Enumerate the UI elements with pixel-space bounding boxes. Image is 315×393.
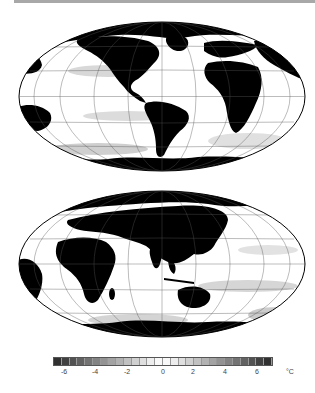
colorbar-segment (101, 358, 109, 365)
map-top-americas (18, 21, 306, 172)
map-bottom-eurasia (18, 190, 306, 338)
colorbar-segment (54, 358, 62, 365)
map-bottom-svg (18, 190, 306, 338)
colorbar (53, 357, 273, 366)
colorbar-segment (217, 358, 225, 365)
colorbar-segment (264, 358, 272, 365)
colorbar-segment (132, 358, 140, 365)
colorbar-segment (147, 358, 155, 365)
colorbar-segment (70, 358, 78, 365)
tick-label: 0 (161, 368, 165, 375)
colorbar-segment (85, 358, 93, 365)
colorbar-ticks: -6 -4 -2 0 2 4 6 (0, 368, 315, 378)
colorbar-segment (194, 358, 202, 365)
colorbar-segment (241, 358, 249, 365)
colorbar-segment (225, 358, 233, 365)
tick-label: 2 (191, 368, 195, 375)
colorbar-segment (210, 358, 218, 365)
header-rule (14, 0, 315, 3)
map-top-svg (18, 21, 306, 172)
colorbar-segment (256, 358, 264, 365)
tick-label: -6 (61, 368, 67, 375)
colorbar-segment (124, 358, 132, 365)
colorbar-segment (186, 358, 194, 365)
colorbar-segment (249, 358, 257, 365)
colorbar-unit: °C (286, 368, 294, 375)
colorbar-segment (171, 358, 179, 365)
colorbar-segment (93, 358, 101, 365)
colorbar-segment (62, 358, 70, 365)
tick-label: -2 (124, 368, 130, 375)
colorbar-segment (179, 358, 187, 365)
colorbar-segment (155, 358, 163, 365)
tick-label: 6 (255, 368, 259, 375)
tick-label: -4 (92, 368, 98, 375)
colorbar-segment (140, 358, 148, 365)
colorbar-segment (116, 358, 124, 365)
colorbar-segment (202, 358, 210, 365)
colorbar-segment (233, 358, 241, 365)
colorbar-segment (163, 358, 171, 365)
tick-label: 4 (223, 368, 227, 375)
colorbar-segment (77, 358, 85, 365)
colorbar-segment (108, 358, 116, 365)
figure-caption-cutoff (14, 388, 304, 393)
